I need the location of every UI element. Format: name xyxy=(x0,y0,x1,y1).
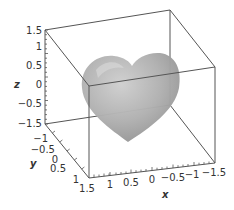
z-tick-neg0.5: −0.5 xyxy=(18,98,42,109)
x-tick-1.5: 1.5 xyxy=(79,183,95,194)
z-tick-0: 0 xyxy=(36,79,42,90)
y-axis-label: y xyxy=(30,158,37,169)
x-tick-labels: 1.5 1 0.5 0 −0.5 −1 −1.5 xyxy=(79,167,226,194)
z-tick-1.5: 1.5 xyxy=(26,25,42,36)
z-tick-labels: 1.5 1 0.5 0 −0.5 −1.5 xyxy=(18,25,42,129)
x-tick-neg1.5: −1.5 xyxy=(202,167,226,178)
3d-plot: 1.5 1 0.5 0 −0.5 −1.5 z −1 −0.5 0 0.5 1 … xyxy=(0,0,234,210)
y-tick-labels: −1 −0.5 0 0.5 1 xyxy=(31,133,79,185)
z-tick-0.5: 0.5 xyxy=(26,60,42,71)
x-tick-neg1: −1 xyxy=(185,169,200,180)
x-tick-0: 0 xyxy=(149,174,155,185)
y-tick-neg1: −1 xyxy=(33,133,48,144)
z-tick-neg1.5: −1.5 xyxy=(18,118,42,129)
plot-canvas: 1.5 1 0.5 0 −0.5 −1.5 z −1 −0.5 0 0.5 1 … xyxy=(0,0,234,210)
heart-surface xyxy=(82,53,180,142)
x-axis-label: x xyxy=(161,189,169,200)
z-axis-label: z xyxy=(13,79,20,90)
y-tick-0.5: 0.5 xyxy=(50,163,66,174)
x-tick-0.5: 0.5 xyxy=(123,177,139,188)
x-tick-neg0.5: −0.5 xyxy=(161,172,185,183)
z-tick-1: 1 xyxy=(36,41,42,52)
x-tick-1: 1 xyxy=(107,179,113,190)
y-tick-1: 1 xyxy=(73,174,79,185)
z-axis-ticks xyxy=(45,30,48,124)
